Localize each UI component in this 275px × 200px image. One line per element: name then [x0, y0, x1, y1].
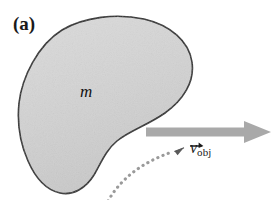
velocity-symbol: v — [190, 140, 197, 156]
figure-panel-a: (a) m v obj — [0, 0, 275, 200]
velocity-label: v obj — [190, 140, 211, 158]
mass-label: m — [80, 83, 92, 100]
vector-arrow-icon — [190, 140, 204, 148]
dotted-leader-curve — [108, 148, 184, 200]
irregular-object-blob — [18, 16, 192, 193]
figure-canvas — [0, 0, 275, 200]
panel-label: (a) — [13, 14, 35, 33]
